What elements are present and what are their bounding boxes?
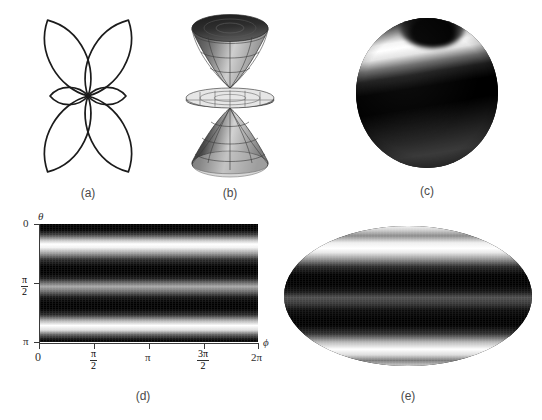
panel-d-density-plot: 0 π 2 π θ 0 π 2 π 3π — [12, 212, 274, 382]
y-axis-tick-pi-over-2 — [34, 283, 40, 284]
x-tick-label-0: 0 — [35, 350, 41, 365]
panel-label-b: (b) — [178, 186, 282, 200]
x-tick-pi-over-2-denominator: 2 — [90, 361, 97, 371]
x-axis-label-phi: ϕ — [263, 336, 269, 348]
sphere-edge-shading — [356, 18, 498, 168]
density-plot-area — [40, 224, 258, 342]
panel-label-d: (d) — [12, 389, 274, 403]
panel-label-e: (e) — [284, 389, 532, 403]
y-axis-tick-0 — [34, 224, 40, 225]
surface-of-revolution-plot — [178, 4, 282, 186]
x-tick-label-pi: π — [145, 351, 151, 363]
panel-e-elliptical-projection — [284, 226, 532, 366]
elliptical-edge-feather — [284, 226, 532, 366]
y-tick-label-pi: π — [23, 335, 29, 347]
x-tick-3pi-over-2-denominator: 2 — [197, 361, 209, 371]
x-tick-label-pi-over-2: π 2 — [90, 349, 97, 371]
y-tick-label-pi-over-2: π 2 — [21, 275, 28, 297]
panel-a-polar-rose — [18, 4, 158, 184]
y-tick-pi-over-2-numerator: π — [21, 275, 28, 285]
surface-lower-lobe — [192, 108, 268, 177]
y-tick-label-0: 0 — [23, 217, 29, 229]
x-axis-tick-0 — [39, 343, 40, 349]
x-tick-label-2pi: 2π — [251, 351, 262, 363]
surface-upper-lobe — [192, 15, 268, 89]
panel-label-a: (a) — [18, 186, 158, 200]
density-noise-texture — [40, 224, 258, 342]
panel-c-shaded-sphere — [356, 18, 498, 168]
y-axis-label-theta: θ — [38, 210, 43, 222]
x-tick-pi-over-2-numerator: π — [90, 349, 97, 359]
y-tick-pi-over-2-denominator: 2 — [21, 287, 28, 297]
figure-canvas: (a) — [0, 0, 542, 420]
panel-b-surface-of-revolution — [178, 4, 282, 186]
polar-rose-plot — [18, 4, 158, 184]
x-axis-tick-2pi — [258, 343, 259, 349]
surface-middle-lobe — [186, 88, 274, 108]
elliptical-projection-area — [284, 226, 532, 366]
x-tick-label-3pi-over-2: 3π 2 — [197, 349, 209, 371]
x-axis-tick-pi — [149, 343, 150, 349]
panel-label-c: (c) — [356, 184, 498, 198]
x-tick-3pi-over-2-numerator: 3π — [197, 349, 209, 359]
sphere-surface — [356, 18, 498, 168]
